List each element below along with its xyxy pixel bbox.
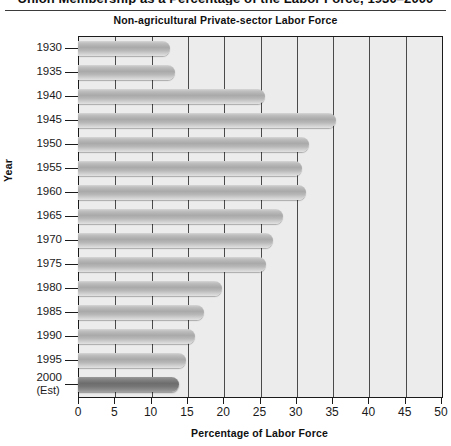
y-tick-label: 1945 [36, 114, 65, 126]
y-tick-sublabel: (Est) [36, 385, 62, 396]
gridline-20 [224, 37, 225, 397]
x-tick-mark-15 [187, 397, 188, 404]
y-tick-1970: 1970 [0, 228, 78, 252]
x-axis-ticks [78, 397, 441, 405]
x-tick-mark-5 [114, 397, 115, 404]
x-axis-title: Percentage of Labor Force [78, 427, 441, 439]
y-tick-label: 1940 [36, 90, 65, 102]
y-tick-label: 1990 [36, 330, 65, 342]
x-tick-label-0: 0 [75, 405, 82, 419]
y-tick-label: 1985 [36, 306, 65, 318]
y-tick-label: 1950 [36, 138, 65, 150]
gridline-10 [152, 37, 153, 397]
y-tick-label: 2000(Est) [36, 372, 65, 396]
gridline-5 [115, 37, 116, 397]
y-tick-mark [65, 48, 78, 49]
gridline-35 [333, 37, 334, 397]
y-tick-1980: 1980 [0, 276, 78, 300]
x-tick-mark-0 [78, 397, 79, 404]
y-axis-title: Year [2, 159, 14, 182]
y-tick-1950: 1950 [0, 132, 78, 156]
y-tick-1945: 1945 [0, 108, 78, 132]
gridline-40 [369, 37, 370, 397]
y-tick-mark [65, 72, 78, 73]
y-tick-label: 1965 [36, 210, 65, 222]
y-tick-mark [65, 192, 78, 193]
y-tick-mark [65, 240, 78, 241]
y-tick-mark [65, 120, 78, 121]
y-tick-1990: 1990 [0, 324, 78, 348]
x-tick-label-5: 5 [111, 405, 118, 419]
x-tick-mark-20 [223, 397, 224, 404]
x-tick-mark-50 [441, 397, 442, 404]
y-tick-1960: 1960 [0, 180, 78, 204]
clipped-page-caption: Union Membership as a Percentage of the … [0, 0, 451, 5]
horizontal-rule [5, 10, 446, 11]
x-tick-label-35: 35 [325, 405, 338, 419]
y-tick-mark [65, 336, 78, 337]
y-tick-mark [65, 288, 78, 289]
y-tick-1935: 1935 [0, 60, 78, 84]
gridline-45 [406, 37, 407, 397]
y-tick-label: 1960 [36, 186, 65, 198]
x-tick-mark-40 [368, 397, 369, 404]
y-tick-mark [65, 360, 78, 361]
y-tick-label: 1930 [36, 42, 65, 54]
y-axis: 1930193519401945195019551960196519701975… [0, 36, 78, 396]
x-tick-mark-30 [296, 397, 297, 404]
y-tick-2000: 2000(Est) [0, 372, 78, 396]
gridline-15 [188, 37, 189, 397]
y-tick-1975: 1975 [0, 252, 78, 276]
y-tick-label: 1970 [36, 234, 65, 246]
y-tick-label: 1975 [36, 258, 65, 270]
y-tick-label: 1980 [36, 282, 65, 294]
chart-title: Non-agricultural Private-sector Labor Fo… [0, 14, 451, 26]
x-tick-mark-45 [405, 397, 406, 404]
y-tick-mark [65, 96, 78, 97]
y-tick-label: 1955 [36, 162, 65, 174]
x-tick-mark-35 [332, 397, 333, 404]
y-tick-mark [65, 168, 78, 169]
x-tick-label-40: 40 [362, 405, 375, 419]
x-tick-label-10: 10 [144, 405, 157, 419]
x-tick-label-30: 30 [289, 405, 302, 419]
x-tick-label-15: 15 [180, 405, 193, 419]
x-tick-label-50: 50 [434, 405, 447, 419]
y-tick-1930: 1930 [0, 36, 78, 60]
y-tick-1985: 1985 [0, 300, 78, 324]
x-tick-label-20: 20 [217, 405, 230, 419]
x-tick-mark-25 [260, 397, 261, 404]
y-tick-1995: 1995 [0, 348, 78, 372]
y-tick-1965: 1965 [0, 204, 78, 228]
x-tick-label-25: 25 [253, 405, 266, 419]
y-tick-mark [65, 264, 78, 265]
x-tick-label-45: 45 [398, 405, 411, 419]
y-tick-mark [65, 312, 78, 313]
x-axis-labels: 05101520253035404550 [78, 405, 441, 421]
y-tick-mark [65, 384, 78, 385]
x-tick-mark-10 [151, 397, 152, 404]
y-tick-label: 1935 [36, 66, 65, 78]
gridline-25 [261, 37, 262, 397]
plot-area [78, 36, 443, 398]
gridline-30 [297, 37, 298, 397]
y-tick-label: 1995 [36, 354, 65, 366]
y-tick-1940: 1940 [0, 84, 78, 108]
y-tick-mark [65, 216, 78, 217]
y-tick-mark [65, 144, 78, 145]
